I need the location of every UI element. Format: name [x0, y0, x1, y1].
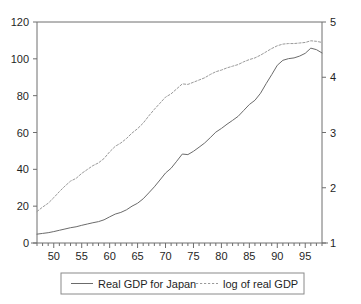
y-axis-right-label: 4	[330, 71, 336, 83]
y-axis-left-label: 60	[17, 127, 29, 139]
y-axis-right-label: 2	[330, 182, 336, 194]
x-axis-label: 50	[48, 250, 60, 262]
y-axis-left-label: 100	[11, 53, 29, 65]
chart-legend: Real GDP for Japanlog of real GDP	[61, 273, 304, 294]
x-axis-label: 80	[215, 250, 227, 262]
x-axis-label: 60	[104, 250, 116, 262]
line-chart: 020406080100120 12345 505560657075808590…	[0, 0, 361, 304]
y-axis-right-label: 5	[330, 16, 336, 28]
y-axis-left-label: 20	[17, 200, 29, 212]
legend-label-2: log of real GDP	[223, 278, 298, 290]
y-axis-left-label: 40	[17, 163, 29, 175]
y-axis-left-label: 80	[17, 90, 29, 102]
x-axis-label: 90	[271, 250, 283, 262]
legend-label-1: Real GDP for Japan	[98, 278, 196, 290]
x-axis-label: 55	[76, 250, 88, 262]
x-axis-label: 75	[187, 250, 199, 262]
x-axis-label: 65	[131, 250, 143, 262]
y-axis-right-label: 1	[330, 237, 336, 249]
y-axis-left-label: 120	[11, 16, 29, 28]
x-axis-label: 85	[243, 250, 255, 262]
x-axis-label: 70	[159, 250, 171, 262]
chart-figure: 020406080100120 12345 505560657075808590…	[0, 0, 361, 304]
y-axis-left-label: 0	[23, 237, 29, 249]
y-axis-right-label: 3	[330, 127, 336, 139]
x-axis-label: 95	[299, 250, 311, 262]
